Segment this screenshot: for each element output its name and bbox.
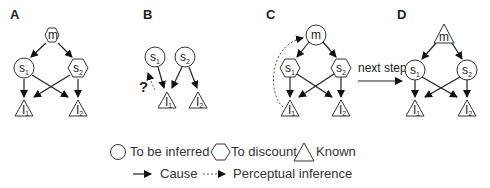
node-m-label: m — [311, 28, 321, 42]
panel-b: B ? s1 s2 I1 I2 — [139, 7, 207, 109]
panel-d: D m s1 s2 I1 I2 — [397, 7, 477, 117]
legend-label-known: Known — [316, 144, 356, 159]
edge-s2-i1 — [172, 67, 182, 88]
perceptual-inference-dashed-arrow — [148, 73, 155, 90]
causal-inference-diagram: A m s1 s2 I1 I2 B ? s1 s2 I1 I2 — [0, 0, 490, 188]
edge-m-s2 — [58, 43, 72, 57]
panel-label-a: A — [10, 7, 20, 22]
panel-label-b: B — [143, 7, 152, 22]
edge-s2-i1 — [34, 75, 70, 97]
legend-label-perceptual-inference: Perceptual inference — [233, 166, 352, 181]
circle-icon — [111, 145, 126, 160]
legend: To be inferred To discount Known Cause P… — [111, 143, 356, 181]
edge-m-s1 — [297, 42, 309, 57]
edge-m-s1 — [422, 43, 436, 59]
legend-label-to-be-inferred: To be inferred — [130, 144, 210, 159]
panel-label-d: D — [397, 7, 406, 22]
hexagon-icon — [211, 144, 230, 160]
triangle-icon — [294, 143, 314, 161]
edge-s1-i2 — [297, 74, 332, 97]
node-m-label: m — [439, 30, 449, 44]
panel-a: A m s1 s2 I1 I2 — [10, 7, 88, 117]
legend-label-cause: Cause — [160, 166, 198, 181]
edge-s2-i2 — [189, 67, 197, 88]
next-step-transition: next step — [358, 61, 407, 81]
node-m-label: m — [48, 28, 58, 42]
edge-m-s2 — [452, 43, 462, 59]
edge-s1-i2 — [422, 77, 457, 97]
panel-c: C m s1 s2 I1 I2 — [266, 7, 351, 117]
edge-m-s2 — [323, 42, 336, 57]
edge-m-s1 — [31, 43, 46, 57]
edge-s1-i1 — [158, 67, 164, 88]
edge-s2-i1 — [299, 74, 334, 97]
panel-label-c: C — [266, 7, 276, 22]
legend-label-to-discount: To discount — [231, 144, 297, 159]
edge-s2-i1 — [425, 77, 460, 97]
edge-s1-i2 — [32, 75, 68, 97]
question-mark: ? — [139, 78, 148, 95]
next-step-label: next step — [358, 61, 407, 75]
